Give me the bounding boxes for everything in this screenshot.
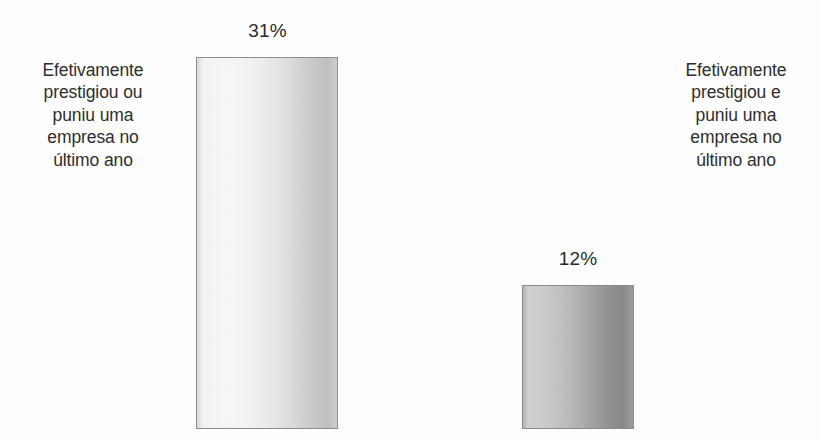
value-label-left: 31% (197, 20, 338, 42)
category-label-right: Efetivamente prestigiou e puniu uma empr… (660, 59, 812, 171)
bar-right (522, 285, 634, 429)
bar-left (196, 57, 338, 429)
bar-chart: Efetivamente prestigiou ou puniu uma emp… (0, 0, 819, 442)
category-label-left: Efetivamente prestigiou ou puniu uma emp… (12, 59, 174, 171)
value-label-right: 12% (522, 248, 634, 270)
